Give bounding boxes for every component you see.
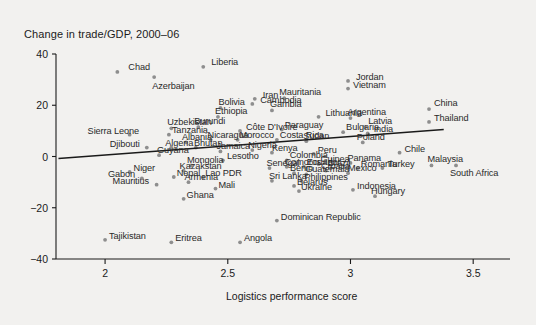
data-point [250, 102, 254, 106]
data-point [115, 70, 119, 74]
data-point [201, 65, 205, 69]
point-label: Gambia [270, 100, 302, 109]
data-point [341, 130, 345, 134]
x-tick-label: 3.5 [466, 267, 481, 279]
point-label: Sudan [303, 132, 329, 141]
data-point [155, 183, 159, 187]
point-label: Malaysia [427, 155, 462, 164]
x-tick-marks [105, 259, 473, 264]
x-tick-label: 2.5 [220, 267, 235, 279]
data-point [275, 219, 279, 223]
data-point [152, 75, 156, 79]
point-label: Armenia [185, 173, 219, 182]
data-point [103, 238, 107, 242]
point-label: Mexico [348, 164, 377, 173]
data-point [317, 115, 321, 119]
point-label: Eritrea [175, 234, 201, 243]
point-label: Mauritius [113, 177, 149, 186]
point-label: Poland [357, 133, 385, 142]
point-label: Jamaica [216, 142, 250, 151]
point-label: Vietnam [353, 81, 386, 90]
data-point [238, 240, 242, 244]
point-label: Tajikistan [109, 232, 146, 241]
point-label: Niger [134, 164, 155, 173]
data-point [292, 184, 296, 188]
data-point [169, 240, 173, 244]
point-label: South Africa [450, 169, 498, 178]
data-point [145, 146, 149, 150]
y-tick-marks [52, 54, 56, 259]
data-point [351, 188, 355, 192]
y-tick-label: 0 [8, 151, 48, 163]
y-tick-label: −20 [8, 202, 48, 214]
point-label: Turkey [387, 160, 414, 169]
point-label: Djibouti [110, 140, 140, 149]
y-tick-label: 20 [8, 99, 48, 111]
point-label: Chile [405, 145, 425, 154]
data-point [346, 87, 350, 91]
data-point [172, 175, 176, 179]
y-tick-label: −40 [8, 253, 48, 265]
point-label: Angola [244, 234, 272, 243]
point-label: Guyana [157, 146, 189, 155]
data-point [253, 97, 257, 101]
x-axis-title: Logistics performance score [226, 290, 357, 302]
point-label: Ethiopia [215, 107, 247, 116]
x-tick-label: 2 [102, 267, 108, 279]
point-label: Liberia [211, 58, 238, 67]
point-label: Lesotho [227, 152, 259, 161]
point-label: Thailand [434, 114, 468, 123]
data-point [346, 79, 350, 83]
point-label: China [434, 99, 458, 108]
point-label: Chad [128, 63, 150, 72]
data-point [182, 197, 186, 201]
x-tick-label: 3 [348, 267, 354, 279]
data-point [427, 107, 431, 111]
y-tick-label: 40 [8, 48, 48, 60]
data-point [167, 133, 171, 137]
point-label: Ghana [187, 191, 214, 200]
data-point [427, 120, 431, 124]
scatter-chart-figure: Change in trade/GDP, 2000–06 40200−20−40… [0, 0, 536, 325]
point-label: Paraguay [285, 121, 324, 130]
data-point [214, 187, 218, 191]
point-label: Mali [219, 181, 235, 190]
point-label: Sierra Leone [88, 127, 139, 136]
point-label: Ukraine [301, 183, 332, 192]
point-label: Hungary [371, 187, 405, 196]
point-label: Morocco [240, 131, 275, 140]
point-label: Azerbaijan [152, 82, 194, 91]
point-label: Dominican Republic [281, 213, 361, 222]
data-point [398, 151, 402, 155]
